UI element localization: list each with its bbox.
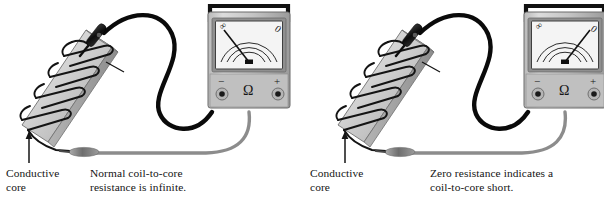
core-pointer-tick — [106, 62, 124, 72]
terminal-jack-negative[interactable] — [532, 88, 544, 100]
core-label: Conductive core — [6, 166, 84, 194]
figure-canvas: ∞ 0 − Ω + C — [0, 0, 604, 214]
terminal-jack-positive[interactable] — [272, 88, 284, 100]
ohmmeter: ∞ 0 − Ω + — [524, 12, 604, 108]
gray-test-lead — [96, 112, 249, 153]
panel-shorted-coil: ∞ 0 − Ω + Conductive core — [302, 0, 604, 214]
terminal-jack-positive[interactable] — [588, 88, 600, 100]
ohmmeter: ∞ 0 − Ω + — [208, 12, 290, 108]
terminal-label-ohm: Ω — [559, 83, 569, 98]
gray-probe — [376, 147, 415, 156]
terminal-label-positive: + — [590, 75, 596, 87]
panel-note: Zero resistance indicates a coil-to-core… — [430, 166, 604, 194]
black-test-lead — [104, 15, 212, 129]
black-test-lead — [420, 15, 528, 129]
core-label: Conductive core — [310, 166, 388, 194]
terminal-label-negative: − — [218, 75, 224, 87]
terminal-jack-negative[interactable] — [216, 88, 228, 100]
gray-test-lead — [412, 112, 565, 153]
terminal-label-ohm: Ω — [243, 83, 253, 98]
panel-normal-coil: ∞ 0 − Ω + C — [0, 0, 302, 214]
terminal-label-positive: + — [274, 75, 280, 87]
panel-note: Normal coil-to-core resistance is infini… — [90, 166, 230, 194]
terminal-label-negative: − — [534, 75, 540, 87]
core-pointer-tick — [422, 62, 440, 72]
gray-probe — [60, 147, 99, 156]
